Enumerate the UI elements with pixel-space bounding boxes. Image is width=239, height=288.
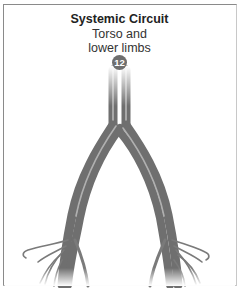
step-number-badge: 12 [112, 55, 127, 70]
diagram-subtitle-line2: lower limbs [0, 41, 239, 55]
diagram-subtitle-line1: Torso and [0, 27, 239, 41]
diagram-title: Systemic Circuit [0, 12, 239, 26]
